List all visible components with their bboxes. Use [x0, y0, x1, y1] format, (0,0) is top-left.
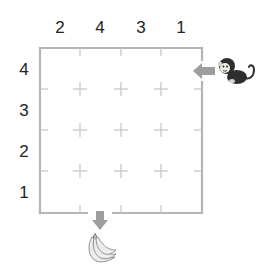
cell-r2-c2[interactable]	[80, 89, 120, 130]
banana-icon	[84, 233, 118, 265]
cell-r4-c4[interactable]	[161, 171, 201, 212]
cell-r4-c3[interactable]	[121, 171, 161, 212]
cell-r3-c4[interactable]	[161, 130, 201, 171]
cell-r3-c1[interactable]	[40, 130, 80, 171]
monkey-icon	[216, 50, 260, 90]
cell-r1-c1[interactable]	[40, 48, 80, 89]
cell-r3-c3[interactable]	[121, 130, 161, 171]
cell-r2-c1[interactable]	[40, 89, 80, 130]
cell-r1-c3[interactable]	[121, 48, 161, 89]
arrow-left-icon	[193, 63, 217, 79]
puzzle-board: 2 4 3 1 4 3 2 1	[0, 0, 273, 273]
cell-r1-c2[interactable]	[80, 48, 120, 89]
cell-r2-c4[interactable]	[161, 89, 201, 130]
cell-r4-c1[interactable]	[40, 171, 80, 212]
cell-r4-c2[interactable]	[80, 171, 120, 212]
arrow-down-icon	[92, 211, 108, 231]
cell-r2-c3[interactable]	[121, 89, 161, 130]
cell-r3-c2[interactable]	[80, 130, 120, 171]
puzzle-grid	[40, 48, 202, 213]
